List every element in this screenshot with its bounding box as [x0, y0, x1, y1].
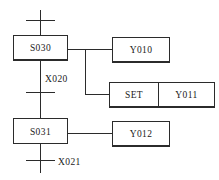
action-label-y010: Y010 [130, 45, 153, 55]
action-label-y011: Y011 [175, 90, 197, 100]
sfc-diagram-canvas: S030 S031 Y010 SET Y011 Y012 X020 X021 [0, 0, 219, 180]
step-label-s030: S030 [30, 43, 51, 53]
transition-label-x020: X020 [45, 74, 68, 84]
transition-label-x021: X021 [58, 157, 81, 167]
action-label-set: SET [125, 90, 143, 100]
step-label-s031: S031 [30, 127, 51, 137]
action-label-y012: Y012 [130, 129, 153, 139]
